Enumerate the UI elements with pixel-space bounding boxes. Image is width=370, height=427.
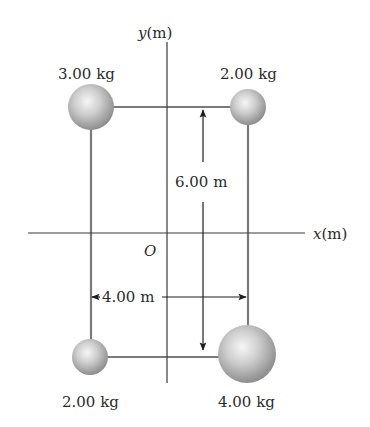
sphere-mass-top-left <box>68 84 114 130</box>
x-axis-label: x(m) <box>313 225 347 243</box>
y-axis-label: y(m) <box>137 24 172 42</box>
mass-label-top-left: 3.00 kg <box>58 65 115 83</box>
height-label: 6.00 m <box>175 173 227 191</box>
width-label: 4.00 m <box>102 288 154 306</box>
center-of-mass-diagram: y(m) x(m) O 6.00 m 4.00 m 3.00 kg 2.00 k… <box>0 0 370 427</box>
sphere-mass-top-right <box>230 89 266 125</box>
mass-label-bottom-left: 2.00 kg <box>62 393 119 411</box>
mass-label-bottom-right: 4.00 kg <box>218 393 275 411</box>
sphere-mass-bottom-right <box>218 325 276 383</box>
mass-label-top-right: 2.00 kg <box>220 65 277 83</box>
sphere-mass-bottom-left <box>72 339 108 375</box>
rectangle-frame <box>91 107 248 357</box>
origin-label: O <box>144 242 156 260</box>
